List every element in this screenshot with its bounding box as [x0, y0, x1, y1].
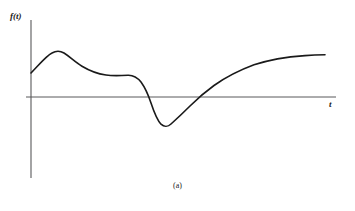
waveform-plot: [0, 0, 355, 211]
figure-container: f(t) t (a): [0, 0, 355, 211]
figure-caption: (a): [0, 182, 355, 190]
y-axis-label: f(t): [10, 12, 22, 21]
x-axis-label: t: [329, 100, 332, 109]
waveform-curve: [31, 51, 325, 126]
